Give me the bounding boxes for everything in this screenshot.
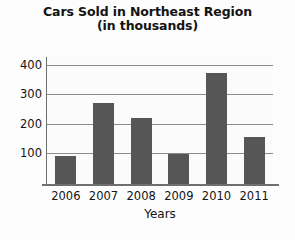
- gridline-400: [47, 65, 273, 66]
- x-tick-label-2010: 2010: [197, 190, 237, 202]
- bar-2010: [206, 73, 227, 184]
- y-tick-label-300: 300: [8, 90, 42, 102]
- x-axis-tick-labels: 200620072008200920102011: [47, 190, 273, 206]
- bar-2011: [244, 137, 265, 184]
- x-tick-label-2009: 2009: [159, 190, 199, 202]
- bar-2006: [55, 156, 76, 184]
- gridline-200: [47, 124, 273, 125]
- chart-title-line-1: Cars Sold in Northeast Region: [43, 4, 252, 19]
- y-tick-label-100: 100: [8, 149, 42, 161]
- x-tick-label-2008: 2008: [121, 190, 161, 202]
- chart-title: Cars Sold in Northeast Region (in thousa…: [0, 5, 295, 33]
- bar-2008: [131, 118, 152, 184]
- gridline-300: [47, 94, 273, 95]
- x-tick-label-2011: 2011: [234, 190, 274, 202]
- plot-area: [47, 57, 273, 184]
- bar-2007: [93, 103, 114, 184]
- chart-subtitle: (in thousands): [0, 19, 295, 33]
- bar-2009: [168, 154, 189, 184]
- x-tick-label-2007: 2007: [84, 190, 124, 202]
- y-tick-label-200: 200: [8, 119, 42, 131]
- x-tick-label-2006: 2006: [46, 190, 86, 202]
- x-axis-line: [42, 184, 279, 186]
- y-tick-label-400: 400: [8, 60, 42, 72]
- y-axis-tick-labels: 100200300400: [8, 0, 42, 240]
- x-axis-title: Years: [47, 208, 273, 221]
- bar-chart: Cars Sold in Northeast Region (in thousa…: [0, 0, 295, 240]
- gridline-100: [47, 153, 273, 154]
